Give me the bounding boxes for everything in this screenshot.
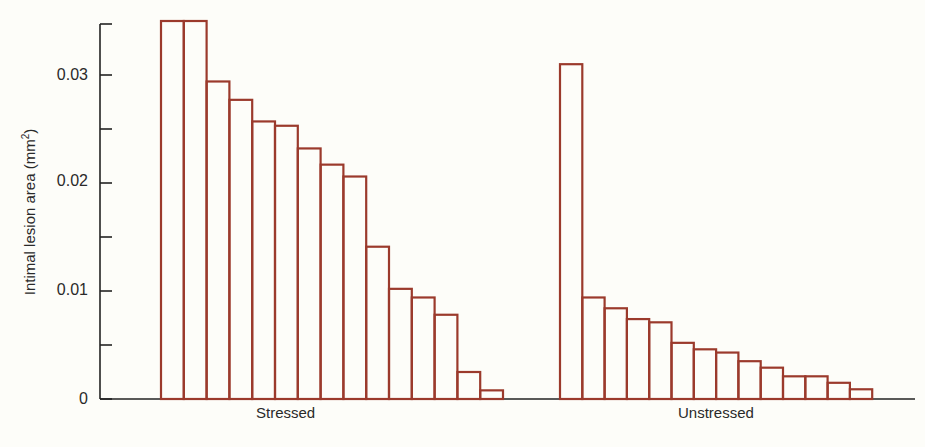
stressed-bar-14 xyxy=(457,372,480,399)
stressed-bar-9 xyxy=(343,177,366,399)
unstressed-bar-1 xyxy=(560,64,582,399)
stressed-bar-13 xyxy=(435,315,458,399)
stressed-bar-10 xyxy=(366,247,389,399)
unstressed-bar-12 xyxy=(805,376,827,399)
unstressed-bar-2 xyxy=(582,297,604,399)
stressed-bar-8 xyxy=(321,165,344,399)
stressed-bar-5 xyxy=(252,121,275,399)
unstressed-bar-8 xyxy=(716,353,738,399)
stressed-bar-7 xyxy=(298,148,321,399)
unstressed-bar-3 xyxy=(605,308,627,399)
unstressed-bar-7 xyxy=(694,349,716,399)
y-tick-label-0: 0 xyxy=(28,390,88,408)
y-axis-label: Intimal lesion area (mm2) xyxy=(20,129,38,295)
stressed-bar-1 xyxy=(161,21,184,399)
unstressed-bar-9 xyxy=(738,361,760,399)
bars xyxy=(161,21,872,399)
stressed-bar-3 xyxy=(207,81,230,399)
bar-chart xyxy=(0,0,925,447)
unstressed-bar-14 xyxy=(850,389,872,399)
stressed-bar-6 xyxy=(275,126,298,399)
stressed-bar-12 xyxy=(412,297,435,399)
stressed-bar-4 xyxy=(229,100,252,399)
axes xyxy=(100,24,915,399)
y-tick-label-001: 0.01 xyxy=(28,281,88,299)
unstressed-bar-10 xyxy=(761,368,783,399)
stressed-bar-15 xyxy=(480,390,503,399)
category-label-unstressed: Unstressed xyxy=(678,404,754,421)
unstressed-bar-6 xyxy=(672,343,694,399)
stressed-bar-11 xyxy=(389,289,412,399)
unstressed-bar-11 xyxy=(783,376,805,399)
category-label-stressed: Stressed xyxy=(256,404,315,421)
unstressed-bar-5 xyxy=(649,322,671,399)
unstressed-bar-4 xyxy=(627,319,649,399)
unstressed-bar-13 xyxy=(828,383,850,399)
stressed-bar-2 xyxy=(184,21,207,399)
y-tick-label-002: 0.02 xyxy=(28,172,88,190)
y-tick-label-003: 0.03 xyxy=(28,66,88,84)
